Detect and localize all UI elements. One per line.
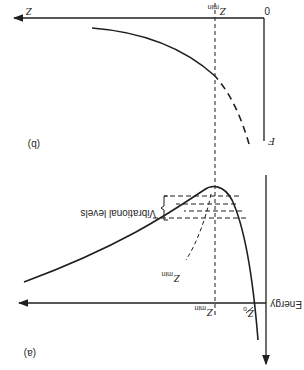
svg-text:min: min [208,4,219,11]
svg-text:min: min [162,271,173,278]
z-axis-b-label: Z [25,6,32,18]
zmin-curve-label: Z min [162,271,180,285]
zmin-b-label: Z min [208,4,226,18]
diagram: (a) Energy Vibrational levels Z min Z o … [0,0,304,370]
svg-text:Z: Z [173,273,180,285]
zmin-axis-tick-label: Z min [195,305,213,319]
svg-text:Z: Z [247,308,254,320]
panel-b-label: (b) [28,139,40,150]
panel-b [14,18,264,144]
zmin-axis-z: Z [206,307,213,319]
origin-label: 0 [264,5,270,16]
panel-a [19,0,266,364]
vibrational-levels-label: Vibrational levels [81,208,156,219]
f-axis-label: F [268,136,276,148]
svg-text:Z: Z [219,6,226,18]
zmin-axis-sub: min [195,305,206,312]
panel-a-label: (a) [24,348,36,359]
energy-axis-label: Energy [270,299,302,310]
potential-energy-diagram: (a) Energy Vibrational levels Z min Z o … [0,0,304,370]
force-curve-dashed [215,76,249,144]
force-curve-solid [92,28,215,76]
svg-text:o: o [243,306,247,313]
